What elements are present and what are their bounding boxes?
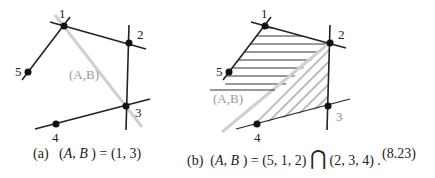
node-2 xyxy=(126,40,133,47)
caption-a-rhs: = (1, 3) xyxy=(100,146,142,161)
node-label-4: 4 xyxy=(254,130,261,145)
node-4 xyxy=(53,121,60,128)
intersection-symbol: ⋂ xyxy=(310,147,326,169)
node-label-1: 1 xyxy=(59,6,66,21)
node-label-2: 2 xyxy=(137,27,144,42)
equation-number: (8.23) xyxy=(382,146,416,162)
caption-b-var-b: B xyxy=(231,153,240,168)
caption-b-prefix: (b) xyxy=(187,153,203,168)
caption-a-prefix: (a) xyxy=(33,146,49,161)
cut-label-ab: (A,B) xyxy=(69,67,99,82)
node-label-4: 4 xyxy=(52,130,59,145)
node-2 xyxy=(327,40,334,47)
caption-b: (b) (A, B ) = (5, 1, 2) ⋂ (2, 3, 4) . xyxy=(187,146,381,170)
cut-label-ab: (A,B) xyxy=(213,91,243,106)
node-4 xyxy=(254,121,261,128)
node-label-2: 2 xyxy=(338,27,345,42)
node-label-5: 5 xyxy=(15,64,22,79)
node-label-1: 1 xyxy=(261,6,268,21)
node-1 xyxy=(61,23,68,30)
node-label-5: 5 xyxy=(216,64,223,79)
caption-b-rhs-1: = (5, 1, 2) xyxy=(251,153,307,168)
panel-a-diagram: 1 2 3 4 5 (A,B) xyxy=(15,6,150,145)
caption-b-rhs-2: (2, 3, 4) . xyxy=(330,153,381,168)
node-5 xyxy=(25,69,32,76)
node-5 xyxy=(226,69,233,76)
caption-a: (a) (A, B ) = (1, 3) xyxy=(33,146,141,162)
node-1 xyxy=(262,23,269,30)
caption-b-var-a: A xyxy=(215,153,224,168)
node-label-3: 3 xyxy=(135,105,142,120)
caption-a-var-b: B xyxy=(79,146,88,161)
node-3 xyxy=(123,103,130,110)
node-3 xyxy=(325,103,332,110)
node-label-3: 3 xyxy=(336,109,343,124)
panel-b-diagram: 1 2 3 4 5 (A,B) xyxy=(210,6,350,145)
caption-a-var-a: A xyxy=(64,146,73,161)
